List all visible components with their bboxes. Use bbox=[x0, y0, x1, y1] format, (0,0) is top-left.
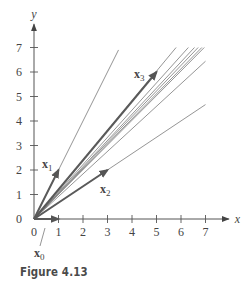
y-tick-label: 4 bbox=[16, 114, 22, 128]
axes: 0123456701234567 bbox=[16, 24, 229, 239]
direction-lines bbox=[34, 48, 206, 220]
x-tick-label: 7 bbox=[203, 225, 209, 239]
y-tick-label: 5 bbox=[16, 90, 22, 104]
figure-caption: Figure 4.13 bbox=[20, 264, 88, 279]
y-axis-label: y bbox=[30, 7, 37, 21]
direction-line bbox=[34, 48, 204, 220]
y-tick-label: 1 bbox=[16, 188, 22, 202]
x-tick-label: 2 bbox=[80, 225, 86, 239]
vector-label-x0: x0 bbox=[34, 246, 45, 262]
x-tick-label: 0 bbox=[31, 225, 37, 239]
direction-line bbox=[34, 48, 188, 220]
vector-x3 bbox=[34, 72, 157, 219]
vector-label-x2: x2 bbox=[100, 182, 111, 198]
x-tick-label: 4 bbox=[129, 225, 135, 239]
x-tick-label: 1 bbox=[56, 225, 62, 239]
vectors bbox=[34, 72, 157, 219]
x-tick-label: 3 bbox=[105, 225, 111, 239]
vector-label-x3: x3 bbox=[134, 67, 145, 83]
x0-leader-line bbox=[40, 228, 45, 246]
labels: xyx0x1x2x3 bbox=[30, 7, 240, 262]
x-tick-label: 6 bbox=[178, 225, 184, 239]
x-tick-label: 5 bbox=[154, 225, 160, 239]
figure-plot: 0123456701234567 xyx0x1x2x3 bbox=[0, 0, 251, 262]
y-tick-label: 2 bbox=[16, 163, 22, 177]
y-tick-label: 7 bbox=[16, 41, 22, 55]
vector-x2 bbox=[34, 170, 108, 219]
y-tick-label: 3 bbox=[16, 139, 22, 153]
vector-label-x1: x1 bbox=[42, 157, 53, 173]
y-tick-label: 0 bbox=[16, 212, 22, 226]
direction-line bbox=[34, 61, 206, 219]
x-axis-label: x bbox=[234, 212, 241, 226]
y-tick-label: 6 bbox=[16, 65, 22, 79]
